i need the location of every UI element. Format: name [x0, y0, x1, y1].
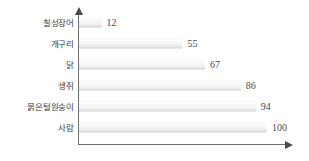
bar: [79, 81, 241, 91]
bar: [79, 39, 182, 49]
value-label: 100: [272, 123, 287, 133]
category-label: 개구리: [51, 39, 74, 48]
category-label: 사람: [58, 123, 74, 132]
bar-group: 86: [79, 81, 256, 90]
value-label: 86: [246, 81, 256, 91]
bar-group: 55: [79, 39, 197, 48]
category-label: 붉은털원숭이: [27, 102, 74, 111]
value-label: 55: [187, 39, 197, 49]
bar-group: 100: [79, 123, 287, 132]
bar-row: 개구리 55: [0, 33, 309, 54]
bar-row: 닭 67: [0, 54, 309, 75]
x-axis-line: [78, 144, 286, 145]
bar-row: 칠성장어 12: [0, 12, 309, 33]
value-label: 67: [210, 60, 220, 70]
bar: [79, 60, 205, 70]
bar: [79, 102, 256, 112]
category-label: 칠성장어: [43, 18, 74, 27]
bar-group: 67: [79, 60, 220, 69]
bar: [79, 123, 267, 133]
value-label: 12: [107, 18, 117, 28]
bar-row: 붉은털원숭이 94: [0, 96, 309, 117]
category-label: 생쥐: [58, 81, 74, 90]
bar-group: 94: [79, 102, 271, 111]
category-label: 닭: [66, 60, 74, 69]
bar-chart: 칠성장어 12 개구리 55 닭 67 생쥐 86 붉은털원숭이 94: [0, 0, 309, 161]
bar-row: 사람 100: [0, 117, 309, 138]
bar: [79, 18, 102, 28]
bar-row: 생쥐 86: [0, 75, 309, 96]
right-arrow-icon: [285, 141, 293, 149]
value-label: 94: [261, 102, 271, 112]
bar-group: 12: [79, 18, 117, 27]
